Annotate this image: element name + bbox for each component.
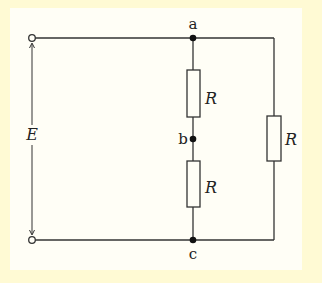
node-c-label: c — [189, 245, 197, 263]
resistor-ac-label: R — [284, 130, 297, 149]
terminal-bottom-icon — [29, 237, 36, 244]
node-a-dot — [190, 35, 197, 42]
resistor-ac — [267, 116, 281, 161]
node-a-label: a — [189, 15, 198, 33]
node-b-dot — [190, 136, 197, 143]
resistor-bc-label: R — [204, 178, 217, 197]
resistor-ab — [187, 70, 200, 117]
resistor-ab-label: R — [204, 89, 217, 108]
resistor-bc — [187, 161, 200, 207]
circuit-diagram: a b c R R R E — [0, 0, 322, 283]
emf-label: E — [25, 125, 38, 144]
terminal-top-icon — [29, 35, 36, 42]
node-c-dot — [190, 237, 197, 244]
node-b-label: b — [178, 130, 188, 148]
